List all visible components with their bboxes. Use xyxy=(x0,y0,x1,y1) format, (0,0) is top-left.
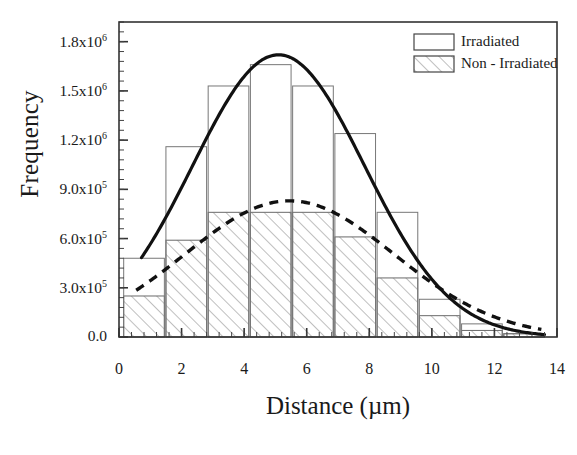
x-tick-label: 10 xyxy=(412,360,452,378)
y-tick-label: 1.8x106 xyxy=(7,32,107,51)
x-tick-label: 8 xyxy=(349,360,389,378)
y-tick-label: 3.0x105 xyxy=(7,278,107,297)
x-tick-label: 6 xyxy=(287,360,327,378)
x-axis-title: Distance (µm) xyxy=(119,392,557,420)
bar-non-irradiated xyxy=(419,316,460,337)
legend-label-irradiated: Irradiated xyxy=(461,33,519,50)
chart-figure: Frequency Distance (µm) 0.03.0x1056.0x10… xyxy=(0,0,577,455)
x-tick-label: 4 xyxy=(224,360,264,378)
bar-non-irradiated xyxy=(124,296,165,337)
bar-non-irradiated xyxy=(377,278,418,337)
y-tick-label: 1.2x106 xyxy=(7,130,107,149)
bar-non-irradiated xyxy=(166,240,207,337)
x-tick-label: 0 xyxy=(99,360,139,378)
bar-non-irradiated xyxy=(335,237,376,337)
bar-non-irradiated xyxy=(250,212,291,337)
x-tick-label: 12 xyxy=(474,360,514,378)
y-tick-label: 1.5x106 xyxy=(7,81,107,100)
bar-non-irradiated xyxy=(293,212,334,337)
x-tick-label: 14 xyxy=(537,360,577,378)
legend-swatch-non-irradiated xyxy=(414,56,454,72)
y-tick-label: 6.0x105 xyxy=(7,229,107,248)
legend-label-non-irradiated: Non - Irradiated xyxy=(461,55,558,72)
legend-swatch-irradiated xyxy=(414,34,454,50)
y-tick-label: 0.0 xyxy=(7,327,107,345)
x-tick-label: 2 xyxy=(162,360,202,378)
y-tick-label: 9.0x105 xyxy=(7,179,107,198)
